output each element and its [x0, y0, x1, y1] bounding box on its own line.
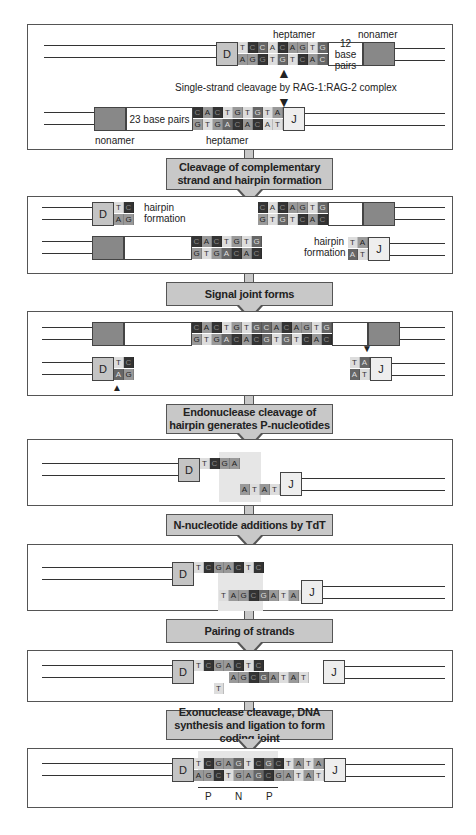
j-segment: J — [370, 357, 392, 381]
nonamer-block — [363, 42, 395, 66]
spacer-23bp — [124, 236, 192, 260]
d-segment: D — [216, 42, 238, 66]
d-segment: D — [172, 660, 194, 684]
step-4: N-nucleotide additions by TdT — [166, 514, 333, 536]
j-segment: J — [324, 758, 346, 782]
spacer-23bp — [124, 322, 192, 346]
cleavage-label: Single-strand cleavage by RAG-1:RAG-2 co… — [175, 82, 397, 93]
nonamer-block-2 — [94, 107, 126, 131]
hairpin-label-d: hairpin formation — [144, 202, 184, 224]
spacer-12bp — [328, 202, 363, 226]
d-segment: D — [172, 562, 194, 586]
nonamer-label-bottom: nonamer — [95, 135, 134, 146]
hairpin-label-j: hairpin formation — [304, 236, 344, 258]
bottom-heptamer-lower: GTGACACAT — [193, 119, 283, 130]
step-2: Signal joint forms — [166, 282, 333, 306]
panel-p-nucleotides: D TCGA ATAT J — [27, 439, 453, 506]
nonamer-label-top: nonamer — [358, 29, 397, 40]
spacer-23bp: 23 base pairs — [126, 107, 193, 131]
step-3: Endonuclease cleavage of hairpin generat… — [166, 404, 333, 434]
panel-n-nucleotides: D TCGACTC TAGCGATAT J — [27, 544, 453, 611]
j-segment: J — [368, 237, 390, 261]
top-heptamer-lower: AGGTGTCAC — [238, 54, 328, 65]
step-5: Pairing of strands — [166, 619, 333, 643]
nonamer-block — [363, 202, 395, 226]
n-label: N — [235, 791, 242, 802]
bottom-heptamer-upper: CACTGTGTA — [193, 107, 283, 118]
step-1: Cleavage of complementary strand and hai… — [166, 158, 333, 190]
spacer-12bp: 12 base pairs — [328, 42, 363, 66]
cleavage-arrow-icon: ▲ — [112, 382, 122, 394]
heptamer-label-bottom: heptamer — [206, 135, 248, 146]
j-segment: J — [280, 472, 302, 496]
step-6: Exonuclease cleavage, DNA synthesis and … — [166, 710, 333, 740]
panel-rag-cleavage: D TCCACAGTG AGGTGTCAC 12 base pairs hept… — [27, 24, 453, 150]
heptamer-label-top: heptamer — [273, 29, 315, 40]
d-segment: D — [178, 458, 200, 482]
panel-pairing: D TCGACTC AGCGATAT T J — [27, 650, 453, 702]
d-segment: D — [172, 758, 194, 782]
j-segment: J — [323, 660, 345, 684]
panel-signal-joint: CACTGTGCACAGTG GTGACACGTGTCAC D TC AG ▲ … — [27, 311, 453, 396]
j-segment: J — [283, 107, 305, 131]
arrow-up-icon: ▲ — [277, 67, 291, 79]
panel-hairpin: D TC AG hairpin formation CACAGTG GTGTCA… — [27, 196, 453, 274]
p-label-1: P — [205, 791, 212, 802]
top-heptamer-upper: TCCACAGTG — [238, 42, 328, 53]
nonamer-block — [92, 322, 124, 346]
cleavage-arrow-icon: ▼ — [362, 343, 372, 355]
panel-coding-joint: D TCGAGTCGCTATA AGCTGAGCGATAT J P N P — [27, 748, 453, 808]
nonamer-block-2 — [368, 322, 400, 346]
d-segment: D — [92, 202, 114, 226]
nonamer-block-2 — [92, 236, 124, 260]
j-segment: J — [301, 580, 323, 604]
p-label-2: P — [266, 791, 273, 802]
d-segment: D — [92, 357, 114, 381]
